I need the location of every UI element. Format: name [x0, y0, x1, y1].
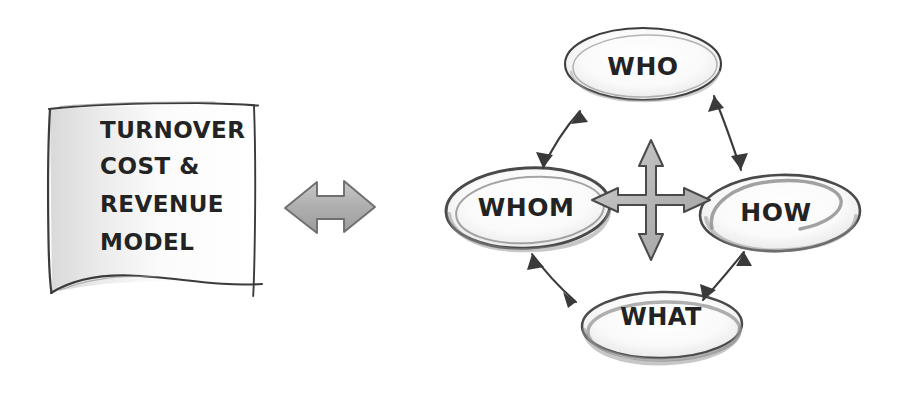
diagram-canvas: TURNOVER COST & REVENUE MODEL WHO WHOM [0, 0, 900, 395]
four-way-move-arrow-shape [592, 140, 710, 260]
connector-who-how[interactable] [708, 96, 748, 170]
connector-whom-what[interactable] [527, 254, 576, 308]
connector-what-how[interactable] [700, 252, 752, 300]
model-to-framework-arrow-shape [285, 181, 375, 233]
sketch-layer: TURNOVER COST & REVENUE MODEL WHO WHOM [0, 0, 900, 395]
node-how-label: HOW [740, 198, 811, 227]
connector-who-how-head-lower [731, 153, 748, 170]
four-way-move-arrow[interactable] [592, 140, 710, 260]
model-line-1: TURNOVER [100, 117, 245, 143]
connector-whom-who[interactable] [536, 111, 588, 168]
node-whom-label: WHOM [478, 193, 575, 222]
model-box-right-edge [253, 106, 255, 296]
connector-who-how-head-upper [708, 96, 724, 112]
model-line-4: MODEL [100, 229, 194, 255]
model-line-3: REVENUE [100, 191, 224, 217]
model-to-framework-arrow[interactable] [285, 181, 375, 233]
node-who-label: WHO [607, 52, 678, 81]
model-line-2: COST & [100, 153, 200, 179]
node-what-label: WHAT [620, 303, 702, 331]
